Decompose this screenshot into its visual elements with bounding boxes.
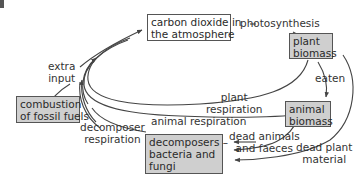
animal-line1: animal — [289, 103, 327, 115]
plant-respiration-label: plant respiration — [206, 91, 262, 115]
fossil-line2: of fossil fuels — [20, 110, 76, 122]
plant-line2: biomass — [293, 47, 329, 59]
dead-plant-label: dead plant material — [296, 141, 352, 165]
fossil-fuels-box: combustion of fossil fuels — [16, 96, 80, 123]
plant-biomass-box: plant biomass — [289, 33, 333, 59]
dead-animals-line1: dead animals — [229, 130, 300, 142]
eaten-label: eaten — [315, 72, 345, 84]
dead-animals-label: dead animals and faeces — [229, 130, 300, 154]
animal-biomass-box: animal biomass — [285, 101, 331, 127]
extra-input-line1: extra — [48, 60, 75, 72]
decomposers-line3: fungi — [149, 160, 219, 172]
dead-plant-line2: material — [296, 153, 352, 165]
plant-line1: plant — [293, 35, 329, 47]
decomposer-respiration-label: decomposer respiration — [80, 121, 145, 145]
dead-plant-line1: dead plant — [296, 141, 352, 153]
photosynthesis-label: photosynthesis — [240, 17, 320, 29]
atmosphere-line2: the atmosphere — [151, 28, 227, 40]
extra-input-line2: input — [48, 72, 75, 84]
animal-line2: biomass — [289, 115, 327, 127]
decomp-resp-line2: respiration — [80, 133, 145, 145]
atmosphere-box: carbon dioxide in the atmosphere — [147, 14, 231, 41]
plant-resp-line2: respiration — [206, 103, 262, 115]
decomp-resp-line1: decomposer — [80, 121, 145, 133]
decomposers-line2: bacteria and — [149, 148, 219, 160]
dead-animals-line2: and faeces — [229, 142, 300, 154]
extra-input-label: extra input — [48, 60, 75, 84]
decomposers-box: decomposers – bacteria and fungi — [145, 134, 223, 174]
atmosphere-line1: carbon dioxide in — [151, 16, 227, 28]
animal-respiration-label: animal respiration — [151, 115, 246, 127]
fossil-line1: combustion — [20, 98, 76, 110]
decomposers-line1: decomposers – — [149, 136, 219, 148]
plant-resp-line1: plant — [206, 91, 262, 103]
